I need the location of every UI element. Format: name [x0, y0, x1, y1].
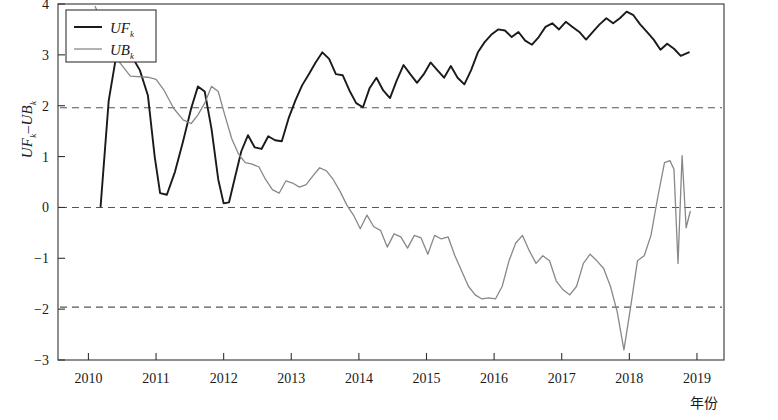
- plot-area: −3−2−101234 2010201120122013201420152016…: [0, 0, 778, 420]
- data-curves: [95, 7, 690, 350]
- x-tick-label: 2017: [548, 371, 576, 386]
- chart-figure: UFk–UBk 年份 −3−2−101234 20102011201220132…: [0, 0, 778, 420]
- x-tick-label: 2016: [480, 371, 508, 386]
- y-tick-label: −2: [34, 302, 49, 317]
- x-tick-label: 2010: [74, 371, 102, 386]
- series-uf-k: [101, 12, 689, 207]
- y-tick-label: 4: [42, 0, 49, 12]
- legend: UFkUBk: [66, 10, 156, 62]
- y-axis-ticks: −3−2−101234: [34, 0, 65, 368]
- y-tick-label: 3: [42, 48, 49, 63]
- y-tick-label: 1: [42, 150, 49, 165]
- y-tick-label: 0: [42, 200, 49, 215]
- x-axis-ticks: 2010201120122013201420152016201720182019: [74, 353, 711, 386]
- x-tick-label: 2015: [412, 371, 440, 386]
- x-tick-label: 2011: [142, 371, 169, 386]
- x-tick-label: 2018: [615, 371, 643, 386]
- y-tick-label: −3: [34, 353, 49, 368]
- y-tick-label: 2: [42, 99, 49, 114]
- x-tick-label: 2013: [277, 371, 305, 386]
- reference-lines: [60, 108, 722, 307]
- y-tick-label: −1: [34, 251, 49, 266]
- x-tick-label: 2012: [210, 371, 238, 386]
- x-tick-label: 2019: [683, 371, 711, 386]
- x-tick-label: 2014: [345, 371, 373, 386]
- series-ub-k: [95, 7, 690, 350]
